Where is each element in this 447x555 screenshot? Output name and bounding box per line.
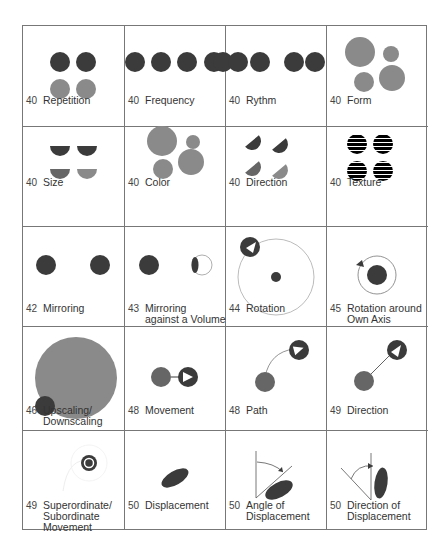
cell-label: Color bbox=[145, 177, 170, 188]
cell-color: 40Color bbox=[125, 127, 226, 227]
page-number: 49 bbox=[26, 500, 37, 511]
size-halfcircles-icon bbox=[23, 127, 125, 227]
page-number: 49 bbox=[330, 405, 341, 416]
cell-superordinate: 49Superordinate/SubordinateMovement bbox=[23, 431, 125, 529]
cell-label: Rythm bbox=[246, 95, 276, 106]
cell-angle-displacement: 50Angle ofDisplacement bbox=[226, 431, 327, 529]
page-number: 43 bbox=[128, 303, 139, 314]
page-number: 40 bbox=[26, 95, 37, 106]
page-number: 45 bbox=[330, 303, 341, 314]
page-number: 44 bbox=[229, 303, 240, 314]
cell-label: Rotation bbox=[246, 303, 285, 314]
cell-label: Movement bbox=[145, 405, 194, 416]
cell-label: Repetition bbox=[43, 95, 90, 106]
page-number: 42 bbox=[26, 303, 37, 314]
cell-displacement: 50Displacement bbox=[125, 431, 226, 529]
page-number: 40 bbox=[330, 177, 341, 188]
cell-direction-displacement: 50Direction ofDisplacement bbox=[327, 431, 428, 529]
page-number: 40 bbox=[229, 177, 240, 188]
cell-size: 40Size bbox=[23, 127, 125, 227]
cell-rythm: 40Rythm bbox=[226, 26, 327, 127]
repetition-dots-icon bbox=[23, 26, 125, 127]
cell-label-line3: Movement bbox=[43, 522, 92, 533]
color-circles-icon bbox=[125, 127, 226, 227]
cell-label-line2: against a Volume bbox=[145, 314, 226, 325]
rythm-dots-icon bbox=[226, 26, 327, 127]
cell-frequency: 40Frequency bbox=[125, 26, 226, 127]
path-curve-icon bbox=[226, 327, 327, 431]
cell-label: Displacement bbox=[145, 500, 209, 511]
cell-label: Direction bbox=[246, 177, 287, 188]
page-number: 48 bbox=[128, 405, 139, 416]
visual-principles-grid: 40Repetition 40Frequency 40Rythm 40Form … bbox=[22, 25, 427, 530]
form-circles-icon bbox=[327, 26, 428, 127]
cell-movement: 48Movement bbox=[125, 327, 226, 431]
cell-path: 48Path bbox=[226, 327, 327, 431]
page-number: 50 bbox=[330, 500, 341, 511]
cell-label: Frequency bbox=[145, 95, 195, 106]
cell-form: 40Form bbox=[327, 26, 428, 127]
page-number: 40 bbox=[26, 177, 37, 188]
page-number: 40 bbox=[128, 177, 139, 188]
cell-label-line2: Downscaling bbox=[43, 416, 103, 427]
page-number: 40 bbox=[229, 95, 240, 106]
cell-repetition: 40Repetition bbox=[23, 26, 125, 127]
page-number: 40 bbox=[128, 95, 139, 106]
cell-label: Texture bbox=[347, 177, 381, 188]
displacement-ellipse-icon bbox=[125, 431, 226, 529]
cell-mirroring-volume: 43Mirroringagainst a Volume bbox=[125, 227, 226, 327]
cell-texture: 40Texture bbox=[327, 127, 428, 227]
cell-mirroring: 42Mirroring bbox=[23, 227, 125, 327]
cell-label-line2: Displacement bbox=[347, 511, 411, 522]
frequency-dots-icon bbox=[125, 26, 226, 127]
cell-label: Path bbox=[246, 405, 268, 416]
page-number: 50 bbox=[229, 500, 240, 511]
cell-direction-rotated: 40Direction bbox=[226, 127, 327, 227]
cell-label: Direction bbox=[347, 405, 388, 416]
cell-label: Size bbox=[43, 177, 63, 188]
cell-label-line2: Displacement bbox=[246, 511, 310, 522]
cell-rotation: 44Rotation bbox=[226, 227, 327, 327]
page-number: 50 bbox=[128, 500, 139, 511]
page-number: 48 bbox=[229, 405, 240, 416]
cell-label: Form bbox=[347, 95, 372, 106]
page-number: 40 bbox=[330, 95, 341, 106]
cell-label: Mirroring bbox=[43, 303, 84, 314]
cell-rotation-own-axis: 45Rotation aroundOwn Axis bbox=[327, 227, 428, 327]
cell-direction-movement: 49Direction bbox=[327, 327, 428, 431]
cell-upscaling: 46Upscaling/Downscaling bbox=[23, 327, 125, 431]
cell-label-line2: Own Axis bbox=[347, 314, 391, 325]
page-number: 46 bbox=[26, 405, 37, 416]
